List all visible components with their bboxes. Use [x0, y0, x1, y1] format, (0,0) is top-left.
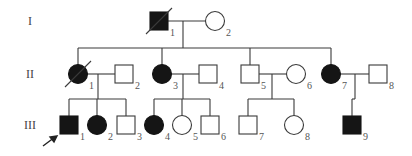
individual-iii-4: 4	[145, 116, 171, 143]
individual-ii-3: 3	[153, 65, 179, 92]
individual-number: 3	[173, 80, 178, 91]
individual-number: 5	[193, 131, 198, 142]
generation-labels: IIIIII	[24, 14, 36, 132]
individual-ii-1: 1	[65, 61, 94, 91]
individual-iii-2: 2	[88, 116, 114, 143]
unaffected-male-square-icon	[117, 116, 135, 134]
individual-iii-6: 6	[201, 116, 226, 142]
generation-label: I	[28, 14, 32, 28]
affected-female-circle-icon	[145, 116, 164, 135]
individual-number: 3	[137, 131, 142, 142]
affected-female-circle-icon	[322, 65, 341, 84]
unaffected-female-circle-icon	[285, 116, 304, 135]
individual-ii-4: 4	[199, 65, 224, 91]
unaffected-male-square-icon	[199, 65, 217, 83]
individual-iii-8: 8	[285, 116, 311, 143]
unaffected-male-square-icon	[115, 65, 133, 83]
arrow-head-icon	[50, 136, 57, 142]
individual-ii-7: 7	[322, 65, 348, 92]
individual-number: 7	[259, 131, 264, 142]
unaffected-female-circle-icon	[287, 65, 306, 84]
generation-label: II	[26, 67, 34, 81]
individual-number: 2	[135, 80, 140, 91]
proband-arrow-icon	[43, 136, 57, 146]
affected-male-square-icon	[343, 116, 361, 134]
individuals: 1212345678123456789	[60, 8, 394, 142]
unaffected-male-square-icon	[239, 116, 257, 134]
affected-female-circle-icon	[88, 116, 107, 135]
individual-number: 8	[305, 131, 310, 142]
individual-number: 6	[307, 80, 312, 91]
individual-number: 4	[165, 131, 170, 142]
individual-number: 2	[226, 27, 231, 38]
individual-iii-5: 5	[173, 116, 199, 143]
affected-female-circle-icon	[153, 65, 172, 84]
individual-number: 1	[80, 131, 85, 142]
individual-number: 1	[170, 27, 175, 38]
individual-iii-3: 3	[117, 116, 142, 142]
unaffected-male-square-icon	[201, 116, 219, 134]
individual-ii-8: 8	[369, 65, 394, 91]
individual-iii-7: 7	[239, 116, 264, 142]
individual-i-1: 1	[146, 8, 175, 38]
generation-label: III	[24, 118, 36, 132]
individual-ii-2: 2	[115, 65, 140, 91]
unaffected-female-circle-icon	[173, 116, 192, 135]
individual-number: 2	[108, 131, 113, 142]
individual-ii-6: 6	[287, 65, 313, 92]
individual-ii-5: 5	[241, 65, 266, 91]
individual-number: 7	[342, 80, 347, 91]
unaffected-male-square-icon	[369, 65, 387, 83]
individual-iii-9: 9	[343, 116, 368, 142]
individual-number: 8	[389, 80, 394, 91]
individual-number: 5	[261, 80, 266, 91]
individual-iii-1: 1	[60, 116, 85, 142]
individual-i-2: 2	[206, 12, 232, 39]
individual-number: 6	[221, 131, 226, 142]
affected-male-square-icon	[60, 116, 78, 134]
individual-number: 4	[219, 80, 224, 91]
pedigree-chart: IIIIII 1212345678123456789	[0, 0, 412, 156]
individual-number: 1	[89, 80, 94, 91]
unaffected-male-square-icon	[241, 65, 259, 83]
individual-number: 9	[363, 131, 368, 142]
unaffected-female-circle-icon	[206, 12, 225, 31]
